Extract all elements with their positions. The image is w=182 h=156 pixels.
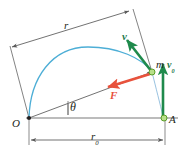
point-marker-O [27, 116, 31, 120]
label-radius-r0-sub: 0 [95, 139, 98, 146]
label-radius-r0: r0 [91, 131, 99, 145]
label-vector-F: F [110, 90, 117, 101]
label-vector-v0-sub: 0 [171, 67, 174, 74]
label-angle-theta: θ [70, 101, 76, 113]
extension-line-left [10, 46, 29, 118]
point-marker-m [149, 69, 155, 75]
label-mass-m: m [156, 59, 164, 70]
label-point-O: O [12, 118, 20, 129]
label-vector-v: v [122, 31, 127, 42]
label-vector-v0: v0 [167, 60, 175, 72]
trajectory-arc [29, 47, 152, 118]
label-point-A: A [169, 114, 176, 125]
tangent-guide-mA [152, 72, 163, 116]
dimension-line-r [12, 11, 129, 47]
point-marker-A [161, 115, 167, 121]
orbital-trajectory-figure: r r0 θ O A m v v0 F [0, 0, 182, 156]
vector-F [108, 74, 150, 87]
label-radius-r: r [64, 20, 68, 31]
